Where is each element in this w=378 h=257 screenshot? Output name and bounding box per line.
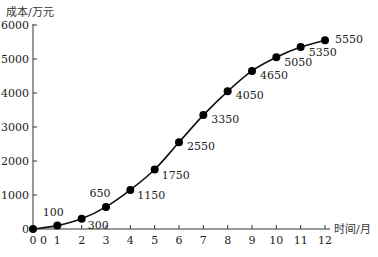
line-chart: 0100020003000400050006000 01234567891011… (0, 0, 378, 257)
data-label: 100 (43, 206, 64, 219)
data-point (321, 36, 329, 44)
data-point (175, 138, 183, 146)
x-tick-label: 7 (200, 234, 207, 247)
data-labels: 1003006501150175025503350405046505050535… (43, 33, 363, 232)
x-tick-label: 10 (269, 234, 283, 247)
y-tick-label: 5000 (1, 53, 29, 66)
data-point (29, 225, 37, 233)
origin-extra-label: 0 (40, 234, 47, 247)
x-tick-label: 8 (224, 234, 231, 247)
x-tick-label: 1 (54, 234, 61, 247)
data-point (248, 67, 256, 75)
y-axis-ticks: 0100020003000400050006000 (1, 19, 37, 236)
x-tick-label: 6 (176, 234, 183, 247)
x-tick-label: 12 (318, 234, 332, 247)
data-label: 5350 (309, 46, 337, 59)
data-label: 4050 (236, 89, 264, 102)
data-label: 2550 (187, 140, 215, 153)
y-tick-label: 6000 (1, 19, 29, 32)
x-tick-label: 2 (78, 234, 85, 247)
x-tick-label: 3 (103, 234, 110, 247)
x-tick-label: 5 (151, 234, 158, 247)
x-axis-ticks: 0123456789101112 (30, 225, 333, 247)
data-label: 1150 (137, 189, 165, 202)
data-point (297, 43, 305, 51)
data-label: 4650 (260, 69, 288, 82)
data-point (53, 222, 61, 230)
y-tick-label: 2000 (1, 155, 29, 168)
data-label: 3350 (211, 113, 239, 126)
data-label: 1750 (162, 169, 190, 182)
x-axis-title: 时间/月 (334, 223, 371, 236)
y-tick-label: 3000 (1, 121, 29, 134)
data-point (126, 186, 134, 194)
x-tick-label: 4 (127, 234, 134, 247)
x-tick-label: 11 (294, 234, 308, 247)
y-tick-label: 4000 (1, 87, 29, 100)
data-point (102, 203, 110, 211)
y-tick-label: 0 (22, 223, 29, 236)
x-tick-label: 9 (249, 234, 256, 247)
data-label: 650 (90, 187, 111, 200)
data-point (151, 166, 159, 174)
axes (33, 24, 330, 229)
data-point (78, 215, 86, 223)
y-axis-title: 成本/万元 (6, 5, 54, 19)
data-label: 5550 (335, 33, 363, 46)
data-label: 300 (88, 219, 109, 232)
x-tick-label: 0 (30, 234, 37, 247)
data-point (272, 53, 280, 61)
data-point (199, 111, 207, 119)
y-tick-label: 1000 (1, 189, 29, 202)
data-point (224, 87, 232, 95)
